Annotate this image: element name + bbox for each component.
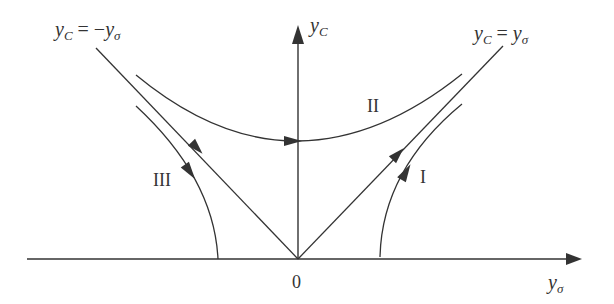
label-sub: C	[483, 32, 492, 47]
label-sub: C	[319, 24, 328, 39]
label-sign: −	[94, 18, 105, 40]
label-base: y	[105, 18, 114, 40]
line-yc-equals-minus-ysigma	[96, 48, 298, 259]
label-eq: =	[497, 22, 508, 44]
label-y-axis: yC	[310, 14, 328, 40]
trajectory-II	[136, 74, 462, 146]
trajectory-III	[136, 106, 218, 259]
label-sub: σ	[114, 28, 120, 43]
label-base: y	[55, 18, 64, 40]
arrowhead-icon	[181, 162, 200, 182]
region-label-II: II	[367, 96, 379, 117]
region-label-III: III	[153, 170, 171, 191]
y-axis-arrowhead-icon	[292, 25, 304, 44]
region-label-I: I	[420, 167, 426, 188]
label-left-line: yC = −yσ	[55, 18, 120, 44]
arrowhead-icon	[284, 136, 302, 146]
origin-label: 0	[292, 272, 301, 293]
label-eq: =	[78, 18, 89, 40]
label-sub: σ	[522, 32, 528, 47]
label-base: y	[474, 22, 483, 44]
label-sub: C	[64, 28, 73, 43]
label-base: y	[548, 271, 557, 293]
label-right-line: yC = yσ	[474, 22, 528, 48]
line-yc-equals-ysigma	[298, 46, 503, 259]
arrowhead-icon	[188, 139, 206, 157]
label-sub: σ	[557, 281, 563, 296]
x-axis	[27, 253, 582, 265]
label-base: y	[310, 14, 319, 36]
label-base: y	[513, 22, 522, 44]
label-x-axis: yσ	[548, 271, 563, 297]
x-axis-arrowhead-icon	[566, 253, 582, 265]
